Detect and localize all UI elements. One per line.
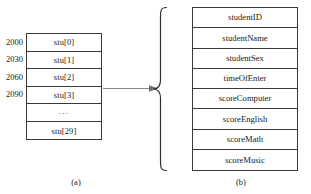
struct-field: scoreEnglish (193, 109, 297, 129)
array-cell: stu[2] (27, 69, 101, 87)
address-label: 2090 (0, 86, 24, 104)
array-cell: stu[1] (27, 52, 101, 70)
address-label-column: 2000 2030 2060 2090 (0, 33, 24, 103)
struct-array-figure: 2000 2030 2060 2090 stu[0] stu[1] stu[2]… (0, 0, 311, 194)
caption-b: (b) (229, 178, 253, 187)
struct-field: studentSex (193, 49, 297, 69)
struct-field: scoreComputer (193, 89, 297, 109)
struct-field: studentName (193, 28, 297, 48)
caption-a: (a) (64, 178, 88, 187)
struct-field: scoreMusic (193, 150, 297, 170)
array-cell: stu[3] (27, 87, 101, 105)
left-curly-brace-icon (152, 6, 168, 172)
array-cell-ellipsis: ... (27, 104, 101, 122)
struct-field: timeOfEnter (193, 69, 297, 89)
struct-field: studentID (193, 8, 297, 28)
struct-field: scoreMath (193, 130, 297, 150)
array-cell: stu[0] (27, 34, 101, 52)
array-block: stu[0] stu[1] stu[2] stu[3] ... stu[29] (26, 33, 102, 140)
address-label: 2000 (0, 33, 24, 51)
address-label: 2060 (0, 68, 24, 86)
array-cell: stu[29] (27, 122, 101, 140)
address-label: 2030 (0, 51, 24, 69)
struct-fields-block: studentID studentName studentSex timeOfE… (192, 7, 298, 171)
